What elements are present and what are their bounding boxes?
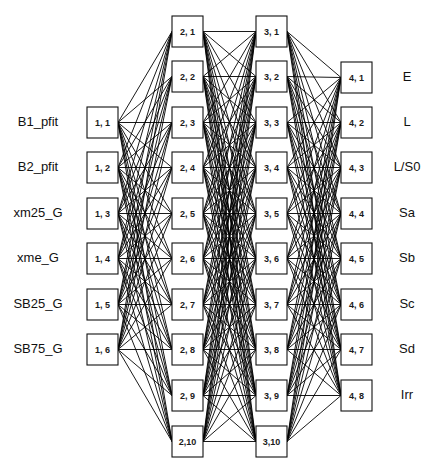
node-3-7: 3, 7 xyxy=(256,289,287,320)
node-4-8: 4, 8 xyxy=(341,380,372,411)
output-label: L/S0 xyxy=(387,160,427,174)
connection-line xyxy=(118,32,172,259)
node-label: 3, 3 xyxy=(264,118,279,128)
node-1-6: 1, 6 xyxy=(87,334,118,365)
node-label: 4, 3 xyxy=(349,163,364,173)
node-3-3: 3, 3 xyxy=(256,107,287,138)
input-label: SB75_G xyxy=(0,342,76,356)
input-label: B2_pfit xyxy=(0,160,76,174)
node-4-1: 4, 1 xyxy=(341,62,372,93)
node-3-8: 3, 8 xyxy=(256,334,287,365)
node-label: 4, 2 xyxy=(349,118,364,128)
connection-line xyxy=(287,305,341,442)
node-label: 3, 4 xyxy=(264,163,279,173)
node-label: 2, 6 xyxy=(180,254,195,264)
node-3-10: 3,10 xyxy=(256,426,287,457)
node-label: 2, 3 xyxy=(180,118,195,128)
output-label: L xyxy=(387,115,427,129)
connection-line xyxy=(287,123,341,442)
input-label: xm25_G xyxy=(0,206,76,220)
node-label: 3, 8 xyxy=(264,345,279,355)
node-3-9: 3, 9 xyxy=(256,380,287,411)
node-2-10: 2,10 xyxy=(172,426,203,457)
node-label: 2, 4 xyxy=(180,163,195,173)
node-1-3: 1, 3 xyxy=(87,198,118,229)
node-3-5: 3, 5 xyxy=(256,198,287,229)
node-label: 4, 7 xyxy=(349,345,364,355)
node-label: 3, 7 xyxy=(264,300,279,310)
node-1-1: 1, 1 xyxy=(87,107,118,138)
node-2-4: 2, 4 xyxy=(172,152,203,183)
node-label: 1, 5 xyxy=(95,300,110,310)
connection-line xyxy=(118,32,172,350)
connection-line xyxy=(287,214,341,442)
node-2-1: 2, 1 xyxy=(172,16,203,47)
input-label: xme_G xyxy=(0,251,76,265)
node-4-7: 4, 7 xyxy=(341,334,372,365)
node-2-5: 2, 5 xyxy=(172,198,203,229)
node-3-6: 3, 6 xyxy=(256,243,287,274)
node-label: 4, 1 xyxy=(349,73,364,83)
node-label: 1, 6 xyxy=(95,345,110,355)
node-4-6: 4, 6 xyxy=(341,289,372,320)
node-1-4: 1, 4 xyxy=(87,243,118,274)
node-2-3: 2, 3 xyxy=(172,107,203,138)
node-4-2: 4, 2 xyxy=(341,107,372,138)
node-1-5: 1, 5 xyxy=(87,289,118,320)
node-label: 2, 9 xyxy=(180,391,195,401)
node-4-4: 4, 4 xyxy=(341,198,372,229)
output-label: Irr xyxy=(387,388,427,402)
node-3-1: 3, 1 xyxy=(256,16,287,47)
node-4-5: 4, 5 xyxy=(341,243,372,274)
node-label: 2, 8 xyxy=(180,345,195,355)
node-2-6: 2, 6 xyxy=(172,243,203,274)
node-2-7: 2, 7 xyxy=(172,289,203,320)
node-label: 4, 8 xyxy=(349,391,364,401)
output-label: E xyxy=(387,70,427,84)
connection-line xyxy=(118,32,172,168)
node-label: 2, 7 xyxy=(180,300,195,310)
node-1-2: 1, 2 xyxy=(87,152,118,183)
node-label: 3, 9 xyxy=(264,391,279,401)
node-label: 3, 2 xyxy=(264,72,279,82)
connection-line xyxy=(287,78,341,442)
node-label: 4, 4 xyxy=(349,209,364,219)
node-label: 1, 4 xyxy=(95,254,110,264)
node-label: 4, 6 xyxy=(349,300,364,310)
node-label: 2, 1 xyxy=(180,27,195,37)
connection-line xyxy=(118,305,172,396)
output-label: Sd xyxy=(387,342,427,356)
node-label: 3, 6 xyxy=(264,254,279,264)
node-label: 4, 5 xyxy=(349,254,364,264)
node-label: 2, 2 xyxy=(180,72,195,82)
output-label: Sa xyxy=(387,206,427,220)
node-2-8: 2, 8 xyxy=(172,334,203,365)
node-label: 3, 5 xyxy=(264,209,279,219)
connection-line xyxy=(118,77,172,350)
node-label: 1, 2 xyxy=(95,163,110,173)
node-2-9: 2, 9 xyxy=(172,380,203,411)
output-label: Sb xyxy=(387,251,427,265)
node-2-2: 2, 2 xyxy=(172,61,203,92)
node-label: 2, 5 xyxy=(180,209,195,219)
input-label: SB25_G xyxy=(0,297,76,311)
node-label: 3,10 xyxy=(263,437,281,447)
node-3-4: 3, 4 xyxy=(256,152,287,183)
node-4-3: 4, 3 xyxy=(341,152,372,183)
node-label: 3, 1 xyxy=(264,27,279,37)
node-label: 1, 1 xyxy=(95,118,110,128)
output-label: Sc xyxy=(387,297,427,311)
node-label: 1, 3 xyxy=(95,209,110,219)
connections xyxy=(118,32,341,442)
node-label: 2,10 xyxy=(179,437,197,447)
input-label: B1_pfit xyxy=(0,115,76,129)
node-3-2: 3, 2 xyxy=(256,61,287,92)
network-diagram: 1, 11, 21, 31, 41, 51, 62, 12, 22, 32, 4… xyxy=(0,0,434,469)
